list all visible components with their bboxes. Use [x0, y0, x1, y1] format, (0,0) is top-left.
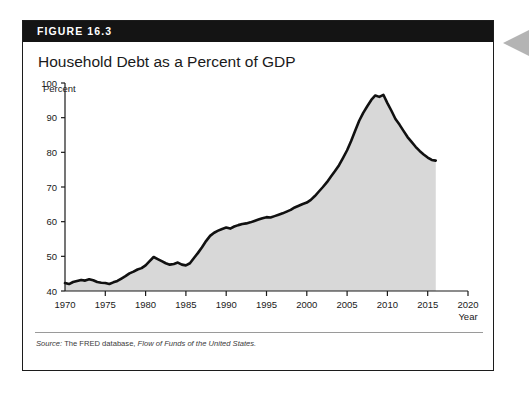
svg-text:2020: 2020	[457, 299, 478, 310]
chevron-left-icon	[503, 30, 529, 56]
chart-plot: 405060708090100 197019751980198519901995…	[23, 75, 495, 333]
svg-text:60: 60	[46, 216, 57, 227]
y-axis-ticks: 405060708090100	[41, 78, 65, 297]
svg-text:2005: 2005	[337, 299, 358, 310]
figure-header-bar: FIGURE 16.3	[23, 21, 493, 42]
figure-card: FIGURE 16.3 Household Debt as a Percent …	[22, 20, 494, 371]
svg-text:90: 90	[46, 112, 57, 123]
svg-text:1975: 1975	[95, 299, 116, 310]
svg-text:1970: 1970	[54, 299, 75, 310]
svg-text:80: 80	[46, 147, 57, 158]
source-roman-text: The FRED database,	[62, 339, 137, 348]
source-divider	[35, 332, 483, 333]
svg-text:2010: 2010	[377, 299, 398, 310]
source-note: Source: The FRED database, Flow of Funds…	[36, 339, 256, 348]
svg-text:50: 50	[46, 251, 57, 262]
household-debt-area-chart: 405060708090100 197019751980198519901995…	[23, 75, 495, 333]
svg-text:1990: 1990	[216, 299, 237, 310]
source-prefix: Source:	[36, 339, 62, 348]
source-italic-text: Flow of Funds of the United States.	[138, 339, 257, 348]
area-fill	[65, 95, 436, 291]
svg-text:1980: 1980	[135, 299, 156, 310]
x-axis-ticks: 1970197519801985199019952000200520102015…	[54, 291, 478, 310]
svg-text:1995: 1995	[256, 299, 277, 310]
svg-text:40: 40	[46, 286, 57, 297]
svg-text:70: 70	[46, 182, 57, 193]
svg-text:100: 100	[41, 78, 57, 89]
figure-badge-label: FIGURE 16.3	[37, 25, 112, 37]
svg-text:2015: 2015	[417, 299, 438, 310]
svg-text:2000: 2000	[296, 299, 317, 310]
page-title: Household Debt as a Percent of GDP	[38, 53, 296, 71]
x-axis-title: Year	[458, 311, 477, 322]
svg-text:1985: 1985	[175, 299, 196, 310]
page-side-tab	[503, 30, 529, 56]
